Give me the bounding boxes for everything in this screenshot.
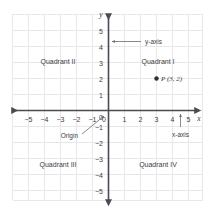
quadrant-2-label: Quadrant II [40, 58, 75, 66]
x-tick-3: 3 [155, 116, 159, 123]
x-tick--1: −1 [89, 116, 97, 123]
y-axis-name: y [98, 10, 103, 19]
x-axis-annotation-label: x-axis [172, 131, 190, 138]
y-tick-1: 1 [99, 92, 103, 99]
x-axis-name: x [196, 114, 201, 123]
y-tick--1: −1 [95, 124, 103, 131]
x-tick-1: 1 [123, 116, 127, 123]
x-tick--3: −3 [57, 116, 65, 123]
coordinate-plane-figure: x y −5 −4 −3 −2 −1 0 1 2 3 4 5 5 4 3 2 1… [0, 0, 213, 216]
x-tick--4: −4 [41, 116, 49, 123]
y-tick-2: 2 [99, 76, 103, 83]
y-axis-annotation-label: y-axis [145, 38, 163, 46]
y-tick--5: −5 [95, 188, 103, 195]
coordinate-plane-svg: x y −5 −4 −3 −2 −1 0 1 2 3 4 5 5 4 3 2 1… [0, 0, 213, 216]
x-tick--2: −2 [73, 116, 81, 123]
x-tick-5: 5 [187, 116, 191, 123]
y-tick-5: 5 [99, 28, 103, 35]
x-tick--5: −5 [25, 116, 33, 123]
y-tick-3: 3 [99, 60, 103, 67]
quadrant-1-label: Quadrant I [141, 58, 174, 66]
x-tick-4: 4 [171, 116, 175, 123]
quadrant-4-label: Quadrant IV [139, 161, 177, 169]
y-tick-4: 4 [99, 44, 103, 51]
quadrant-3-label: Quadrant III [40, 161, 77, 169]
y-tick--2: −2 [95, 140, 103, 147]
y-tick--4: −4 [95, 172, 103, 179]
origin-annotation-label: Origin [61, 132, 79, 140]
y-tick--3: −3 [95, 156, 103, 163]
figure-background [0, 0, 213, 216]
x-tick-2: 2 [139, 116, 143, 123]
point-marker-P [154, 76, 158, 80]
point-label-P: P (3, 2) [160, 75, 183, 83]
